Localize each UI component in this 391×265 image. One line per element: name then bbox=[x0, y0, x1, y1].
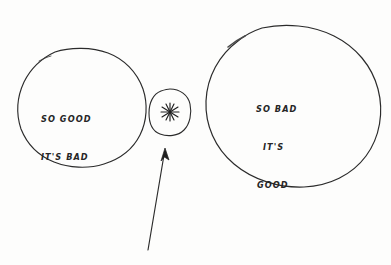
arrow-head bbox=[161, 148, 169, 161]
right-circle-pen-correction bbox=[228, 36, 245, 47]
left-circle-label-line-2: IT'S BAD bbox=[41, 151, 92, 164]
right-circle-label-line-1: SO BAD bbox=[256, 103, 297, 116]
left-circle-pen-nick bbox=[39, 56, 51, 61]
right-circle-label: SO BAD IT'S GOOD bbox=[256, 78, 297, 217]
asterisk-icon bbox=[161, 103, 179, 121]
left-circle-label-line-1: SO GOOD bbox=[41, 113, 92, 126]
cartoon-canvas: SO GOOD IT'S BAD SO BAD IT'S GOOD bbox=[0, 0, 391, 265]
right-circle-label-line-3: GOOD bbox=[256, 179, 297, 192]
arrow-shaft bbox=[148, 155, 164, 250]
left-circle-label: SO GOOD IT'S BAD bbox=[41, 88, 92, 189]
right-circle-label-line-2: IT'S bbox=[256, 141, 297, 154]
pointer-arrow bbox=[148, 148, 169, 250]
